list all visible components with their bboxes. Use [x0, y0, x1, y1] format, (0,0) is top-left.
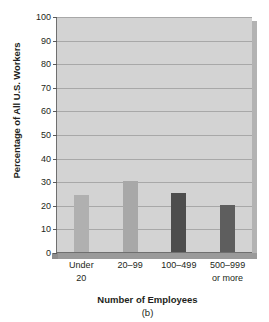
- bar: [220, 205, 235, 252]
- y-axis-tick-mark: [53, 229, 57, 230]
- gridline: [57, 159, 252, 160]
- y-axis-tick-mark: [53, 135, 57, 136]
- x-axis-label: 500–999or more: [196, 259, 260, 284]
- y-axis-title: Percentage of All U.S. Workers: [11, 11, 22, 211]
- y-axis-tick-label: 100: [36, 12, 51, 22]
- figure-caption: (b): [40, 307, 255, 318]
- gridline: [57, 88, 252, 89]
- gridline: [57, 135, 252, 136]
- x-axis-title: Number of Employees: [40, 294, 255, 305]
- bar: [123, 181, 138, 252]
- x-axis-label-line-1: 20–99: [118, 260, 143, 270]
- x-axis-line: [57, 252, 252, 253]
- gridline: [57, 111, 252, 112]
- bar-chart-figure: Percentage of All U.S. Workers 010203040…: [0, 0, 269, 322]
- y-axis-tick-mark: [53, 253, 57, 254]
- y-axis-tick-label: 80: [41, 59, 51, 69]
- x-axis-category-labels: Under2020–99100–499500–999or more: [57, 259, 255, 295]
- y-axis-tick-mark: [53, 88, 57, 89]
- gridline: [57, 64, 252, 65]
- y-axis-tick-label: 0: [46, 248, 51, 258]
- y-axis-tick-mark: [53, 17, 57, 18]
- x-axis-label-line-1: 100–499: [161, 260, 196, 270]
- y-axis-tick-label: 90: [41, 36, 51, 46]
- gridline: [57, 17, 252, 18]
- y-axis-tick-label: 10: [41, 224, 51, 234]
- bar: [171, 193, 186, 252]
- gridline: [57, 41, 252, 42]
- x-axis-label-line-2: or more: [196, 272, 260, 285]
- bar: [74, 195, 89, 252]
- x-axis-label-line-1: 500–999: [210, 260, 245, 270]
- y-axis-tick-mark: [53, 159, 57, 160]
- gridline: [57, 182, 252, 183]
- y-axis-tick-label: 30: [41, 177, 51, 187]
- y-axis-tick-mark: [53, 111, 57, 112]
- y-axis-tick-mark: [53, 41, 57, 42]
- y-axis-tick-label: 50: [41, 130, 51, 140]
- y-axis-tick-mark: [53, 182, 57, 183]
- y-axis-tick-mark: [53, 206, 57, 207]
- x-axis-label-line-2: 20: [49, 272, 113, 285]
- plot-frame: 0102030405060708090100: [57, 17, 255, 253]
- plot-shadow-right: [252, 21, 257, 257]
- y-axis-tick-label: 20: [41, 201, 51, 211]
- y-axis-tick-label: 40: [41, 154, 51, 164]
- plot-area: 0102030405060708090100: [57, 17, 252, 253]
- y-axis-tick-mark: [53, 64, 57, 65]
- y-axis-tick-label: 60: [41, 106, 51, 116]
- y-axis-tick-label: 70: [41, 83, 51, 93]
- x-axis-label-line-1: Under: [69, 260, 94, 270]
